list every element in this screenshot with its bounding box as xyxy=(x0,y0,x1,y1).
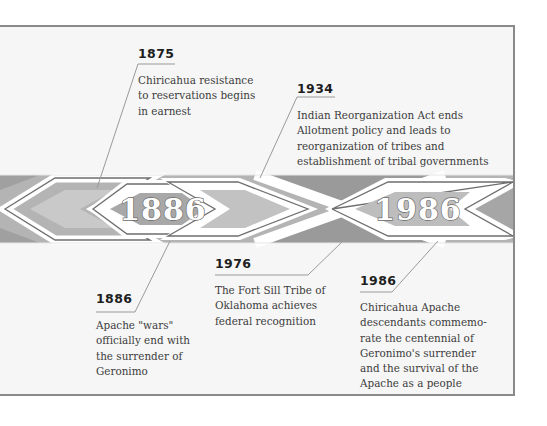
event-1986: 1986 Chiricahua Apache descendants comme… xyxy=(360,274,510,392)
event-description: Indian Reorganization Act ends Allotment… xyxy=(297,108,517,169)
badge-1886: 1886 xyxy=(119,192,207,227)
event-description: The Fort Sill Tribe of Oklahoma achieves… xyxy=(215,283,335,329)
event-description: Apache "wars" officially end with the su… xyxy=(96,318,196,379)
event-1886: 1886 Apache "wars" officially end with t… xyxy=(96,292,196,379)
event-1976: 1976 The Fort Sill Tribe of Oklahoma ach… xyxy=(215,257,335,329)
event-description: Chiricahua resistance to reservations be… xyxy=(138,73,268,119)
event-1875: 1875 Chiricahua resistance to reservatio… xyxy=(138,47,268,119)
badge-1986: 1986 xyxy=(374,192,462,227)
event-year: 1986 xyxy=(360,274,510,288)
event-year: 1886 xyxy=(96,292,196,306)
event-year: 1934 xyxy=(297,82,517,96)
event-year: 1875 xyxy=(138,47,268,61)
event-description: Chiricahua Apache descendants commemo- r… xyxy=(360,300,510,392)
event-year: 1976 xyxy=(215,257,335,271)
event-1934: 1934 Indian Reorganization Act ends Allo… xyxy=(297,82,517,169)
